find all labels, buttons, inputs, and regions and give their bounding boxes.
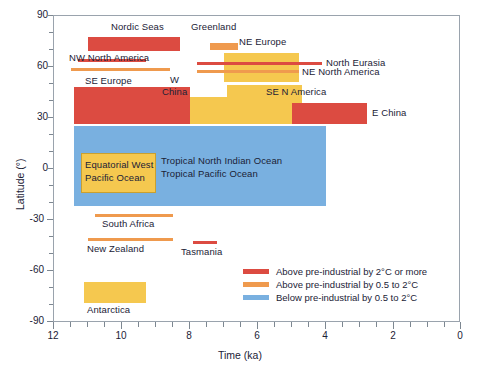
legend-label: Above pre-industrial by 0.5 to 2°C xyxy=(276,279,418,290)
x-tick xyxy=(70,322,71,327)
x-tick xyxy=(206,322,207,327)
label-tropical-pacific-ocean: Tropical Pacific Ocean xyxy=(161,168,258,179)
x-tick-label: 2 xyxy=(378,331,408,341)
label-se-n-america: SE N America xyxy=(266,86,326,97)
paleoclimate-latitude-time-chart: Latitude (°) 90 60 30 0 -30 -60 -90 xyxy=(0,0,492,374)
x-tick xyxy=(393,322,394,329)
label-nw-north-america: NW North America xyxy=(69,52,149,63)
bar-ne-north-america xyxy=(197,70,299,73)
label-w-china-line1: W xyxy=(170,74,179,85)
bar-new-zealand xyxy=(88,238,173,241)
x-tick-label: 4 xyxy=(310,331,340,341)
label-tasmania: Tasmania xyxy=(181,246,222,257)
label-e-china: E China xyxy=(372,107,407,118)
label-ne-north-america: NE North America xyxy=(302,66,380,77)
legend: Above pre-industrial by 2°C or more Abov… xyxy=(243,265,427,304)
label-south-africa: South Africa xyxy=(102,218,154,229)
legend-swatch-below-0p5-to-2c xyxy=(243,295,269,300)
legend-label: Above pre-industrial by 2°C or more xyxy=(276,266,427,277)
x-tick xyxy=(291,322,292,327)
y-tick-label: -60 xyxy=(14,265,44,275)
y-tick-label: 0 xyxy=(18,163,48,173)
x-tick xyxy=(342,322,343,327)
y-tick-label: 60 xyxy=(18,61,48,71)
x-axis-label: Time (ka) xyxy=(218,349,262,361)
legend-label: Below pre-industrial by 0.5 to 2°C xyxy=(276,292,417,303)
x-tick xyxy=(359,322,360,327)
x-tick xyxy=(376,322,377,327)
x-tick xyxy=(138,322,139,327)
y-tick-label: -90 xyxy=(14,316,44,326)
x-tick xyxy=(274,322,275,327)
x-tick xyxy=(172,322,173,327)
bar-ne-europe xyxy=(224,53,299,82)
x-tick xyxy=(460,322,461,329)
bar-antarctica xyxy=(84,282,146,303)
x-tick xyxy=(53,322,54,329)
x-tick xyxy=(257,322,258,329)
legend-item: Below pre-industrial by 0.5 to 2°C xyxy=(243,291,427,304)
label-nordic-seas: Nordic Seas xyxy=(111,21,164,32)
y-tick-label: 90 xyxy=(18,10,48,20)
label-antarctica: Antarctica xyxy=(87,304,130,315)
x-tick xyxy=(410,322,411,327)
x-tick-label: 8 xyxy=(174,331,204,341)
bar-south-africa xyxy=(95,214,173,217)
legend-swatch-above-0p5-to-2c xyxy=(243,282,269,287)
label-new-zealand: New Zealand xyxy=(87,243,144,254)
x-tick xyxy=(444,322,445,327)
legend-item: Above pre-industrial by 0.5 to 2°C xyxy=(243,278,427,291)
x-tick xyxy=(240,322,241,327)
x-tick xyxy=(223,322,224,327)
label-tropical-north-indian-ocean: Tropical North Indian Ocean xyxy=(161,155,282,166)
legend-item: Above pre-industrial by 2°C or more xyxy=(243,265,427,278)
label-equatorial-west-pacific-line1: Equatorial West xyxy=(85,159,153,170)
y-tick-label: -30 xyxy=(14,214,44,224)
y-tick-label: 30 xyxy=(18,112,48,122)
x-tick xyxy=(104,322,105,327)
bar-nw-north-america-orange xyxy=(71,68,170,71)
x-tick xyxy=(155,322,156,327)
x-tick-label: 0 xyxy=(445,331,475,341)
label-w-china-line2: China xyxy=(162,86,187,97)
x-tick xyxy=(427,322,428,327)
x-tick-label: 10 xyxy=(106,331,136,341)
bar-north-eurasia xyxy=(197,62,322,65)
x-tick xyxy=(121,322,122,329)
bar-e-china xyxy=(292,103,367,124)
bar-nordic-seas xyxy=(88,37,180,51)
label-greenland: Greenland xyxy=(191,21,236,32)
x-tick xyxy=(87,322,88,327)
label-equatorial-west-pacific-line2: Pacific Ocean xyxy=(85,172,145,183)
label-se-europe: SE Europe xyxy=(85,75,132,86)
x-tick-label: 12 xyxy=(38,331,68,341)
bar-greenland xyxy=(210,43,238,50)
x-tick xyxy=(308,322,309,327)
legend-swatch-above-2c xyxy=(243,269,269,274)
x-tick-label: 6 xyxy=(242,331,272,341)
bar-tasmania xyxy=(193,241,217,244)
x-tick xyxy=(325,322,326,329)
x-tick xyxy=(189,322,190,329)
label-ne-europe: NE Europe xyxy=(239,36,286,47)
